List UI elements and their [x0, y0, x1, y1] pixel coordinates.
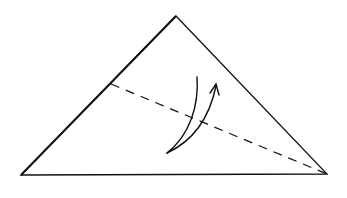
origami-diagram	[0, 0, 347, 198]
